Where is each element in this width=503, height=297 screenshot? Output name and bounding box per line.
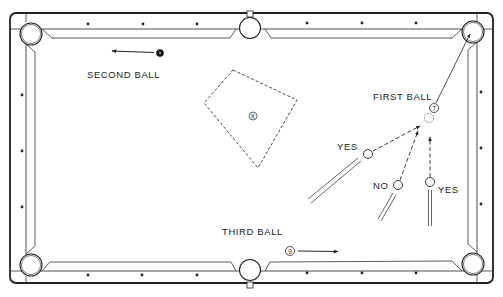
diamond-icon bbox=[196, 274, 199, 277]
diamond-icon bbox=[87, 23, 90, 26]
table-frame bbox=[10, 13, 493, 283]
diamond-icon bbox=[306, 272, 309, 275]
cue-stick-icon bbox=[429, 190, 432, 226]
cue-position-yes-left: YES bbox=[308, 126, 420, 203]
diamond-icon bbox=[306, 22, 309, 25]
yes-right-label: YES bbox=[438, 184, 459, 195]
diamond-icon bbox=[141, 274, 144, 277]
cue-position-no: NO bbox=[373, 131, 418, 221]
pool-table-diagram: SECOND BALL X FIRST BALL 7 YES NO bbox=[0, 0, 503, 297]
target-zone: X bbox=[204, 70, 297, 168]
cue-position-yes-right: YES bbox=[426, 137, 459, 226]
aim-line bbox=[400, 131, 418, 180]
diamond-icon bbox=[415, 272, 418, 275]
first-ball-label: FIRST BALL bbox=[373, 91, 432, 102]
cue-stick-icon bbox=[378, 193, 396, 221]
diamond-icon bbox=[21, 94, 24, 97]
diamond-icon bbox=[87, 274, 90, 277]
third-ball-group: THIRD BALL 9 bbox=[222, 226, 338, 256]
pockets bbox=[20, 11, 484, 288]
third-ball-arrow bbox=[298, 251, 338, 252]
cushion-bottom-right bbox=[265, 261, 462, 271]
pocket-top-right bbox=[462, 21, 484, 43]
cushion-bottom-left bbox=[42, 262, 236, 271]
rail-diamonds bbox=[21, 22, 483, 277]
diamond-icon bbox=[480, 91, 483, 94]
diamond-icon bbox=[21, 206, 24, 209]
cue-ball-icon bbox=[364, 150, 373, 159]
cushion-left bbox=[26, 44, 35, 254]
second-ball-group: SECOND BALL bbox=[87, 49, 164, 80]
cushion-top-left bbox=[42, 29, 236, 38]
no-label: NO bbox=[373, 180, 388, 191]
diamond-icon bbox=[361, 272, 364, 275]
pocket-top-middle bbox=[240, 11, 261, 39]
yes-left-label: YES bbox=[337, 141, 358, 152]
second-ball-label: SECOND BALL bbox=[87, 69, 160, 80]
diamond-icon bbox=[142, 23, 145, 26]
ghost-ball-icon bbox=[425, 114, 434, 123]
cushion-top-right bbox=[265, 29, 462, 38]
first-ball-group: FIRST BALL 7 bbox=[373, 34, 470, 123]
pocket-bottom-right bbox=[462, 253, 484, 275]
third-ball-number: 9 bbox=[288, 248, 292, 255]
first-ball-number: 7 bbox=[432, 105, 436, 112]
second-ball-arrow bbox=[112, 51, 154, 53]
diamond-icon bbox=[361, 22, 364, 25]
cue-stick-icon bbox=[308, 158, 361, 203]
third-ball-label: THIRD BALL bbox=[222, 226, 283, 237]
aim-line bbox=[373, 126, 420, 151]
x-ball-label: X bbox=[251, 113, 256, 120]
diamond-icon bbox=[480, 147, 483, 150]
cushions bbox=[10, 13, 493, 283]
cushion-right bbox=[468, 42, 477, 252]
outer-rail bbox=[10, 13, 493, 283]
cue-ball-icon bbox=[394, 181, 403, 190]
pocket-bottom-left bbox=[20, 254, 42, 276]
pocket-top-left bbox=[20, 23, 42, 45]
first-ball-path bbox=[436, 34, 470, 103]
diamond-icon bbox=[480, 203, 483, 206]
diamond-icon bbox=[196, 23, 199, 26]
cue-ball-icon bbox=[426, 178, 435, 187]
diamond-icon bbox=[21, 150, 24, 153]
diamond-icon bbox=[415, 22, 418, 25]
